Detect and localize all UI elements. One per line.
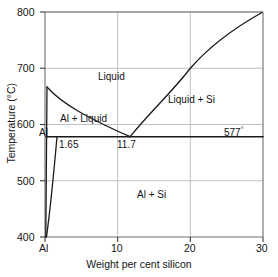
xtick-label-30: 30 xyxy=(256,243,268,254)
ytick-label-700: 700 xyxy=(17,63,35,74)
curve-si-liquidus xyxy=(130,13,262,137)
plot-area xyxy=(0,0,278,277)
line-al-solidus-vertical xyxy=(46,87,47,237)
label-eutectic-composition: 11.7 xyxy=(117,140,136,150)
y-axis-title: Temperature (°C) xyxy=(6,63,17,183)
region-label-al-plus-liquid: Al + Liquid xyxy=(60,114,107,124)
grid-lines xyxy=(45,12,263,237)
curve-al-solvus xyxy=(47,137,57,237)
ytick-label-400: 400 xyxy=(17,232,35,243)
xtick-label-20: 20 xyxy=(184,243,196,254)
phase-diagram-figure: 800 700 600 500 400 Al 10 20 30 Liquid A… xyxy=(0,0,278,277)
region-label-al-plus-si: Al + Si xyxy=(137,190,166,200)
xtick-label-10: 10 xyxy=(111,243,123,254)
eutectic-temperature-value: 577 xyxy=(224,127,241,138)
degree-symbol-icon: ° xyxy=(241,126,244,133)
x-axis-title: Weight per cent silicon xyxy=(0,259,278,270)
label-eutectic-temperature: 577° xyxy=(224,126,244,138)
ytick-label-800: 800 xyxy=(17,7,35,18)
ytick-label-600: 600 xyxy=(17,119,35,130)
label-al-phase: Al xyxy=(39,128,48,138)
label-solvus-composition: 1.65 xyxy=(59,140,78,150)
region-label-liquid: Liquid xyxy=(98,72,125,82)
ytick-label-500: 500 xyxy=(17,176,35,187)
xtick-label-al: Al xyxy=(39,243,48,254)
region-label-liquid-plus-si: Liquid + Si xyxy=(168,95,215,105)
